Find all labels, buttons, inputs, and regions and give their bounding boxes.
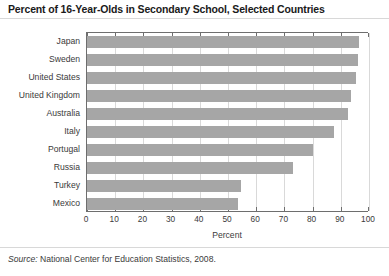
bar-series <box>87 33 368 211</box>
bar-row <box>87 36 368 49</box>
chart-title: Percent of 16-Year-Olds in Secondary Sch… <box>8 3 382 16</box>
bar <box>87 108 348 121</box>
bar <box>87 144 313 157</box>
category-label: Mexico <box>53 199 80 208</box>
bar <box>87 126 334 139</box>
x-tick-label: 0 <box>73 215 99 224</box>
x-tick-label: 100 <box>355 215 381 224</box>
x-tick-label: 80 <box>299 215 325 224</box>
bar <box>87 36 359 49</box>
bar <box>87 54 358 67</box>
x-tick-label: 60 <box>242 215 268 224</box>
category-label: Australia <box>47 109 80 118</box>
plot-area <box>86 32 368 212</box>
source-text: National Center for Education Statistics… <box>40 254 216 264</box>
bar-row <box>87 198 368 211</box>
category-label: United Kingdom <box>19 91 80 100</box>
bar-row <box>87 162 368 175</box>
x-tick-label: 30 <box>158 215 184 224</box>
bar-row <box>87 126 368 139</box>
category-label: United States <box>28 73 80 82</box>
source-note: Source: National Center for Education St… <box>8 254 216 264</box>
bar <box>87 162 293 175</box>
x-tick-label: 50 <box>214 215 240 224</box>
source-label: Source: <box>8 254 38 264</box>
bar <box>87 90 351 103</box>
bar <box>87 198 238 211</box>
x-tick-label: 20 <box>129 215 155 224</box>
x-axis-title: Percent <box>86 230 368 240</box>
x-tick-label: 40 <box>186 215 212 224</box>
x-tick-label: 90 <box>327 215 353 224</box>
bar-row <box>87 180 368 193</box>
chart-figure: Percent of 16-Year-Olds in Secondary Sch… <box>0 0 389 276</box>
category-label: Sweden <box>49 55 80 64</box>
tick-mark-top <box>368 33 369 37</box>
x-tick-label: 70 <box>270 215 296 224</box>
title-divider <box>0 18 389 19</box>
gridline <box>369 33 370 211</box>
bar-row <box>87 108 368 121</box>
bar-row <box>87 144 368 157</box>
source-divider <box>0 247 389 248</box>
bar-row <box>87 54 368 67</box>
category-label: Russia <box>54 163 80 172</box>
tick-mark-bottom <box>368 207 369 211</box>
bar <box>87 72 356 85</box>
category-label: Portugal <box>48 145 80 154</box>
bar-row <box>87 90 368 103</box>
category-label: Japan <box>57 37 80 46</box>
category-label: Turkey <box>54 181 80 190</box>
bar <box>87 180 241 193</box>
bar-row <box>87 72 368 85</box>
category-label: Italy <box>64 127 80 136</box>
x-tick-label: 10 <box>101 215 127 224</box>
